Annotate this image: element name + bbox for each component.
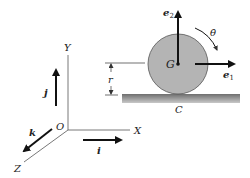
j-label: j [42, 87, 48, 98]
contact-point-c-label: C [175, 104, 183, 115]
x-axis-label: X [133, 125, 142, 136]
center-g-label: G [166, 58, 175, 71]
origin-o-label: O [56, 121, 64, 132]
e2-label: e2 [163, 7, 174, 20]
rolling-disk-diagram: e2 e1 θ̇ G C r Y X Z O j i k [0, 0, 250, 178]
z-axis-label: Z [13, 163, 22, 174]
i-label: i [97, 145, 101, 156]
theta-dot-label: θ̇ [210, 27, 216, 38]
e1-label: e1 [223, 69, 234, 82]
y-axis-label: Y [64, 42, 72, 53]
ground-surface [122, 94, 240, 103]
radius-r-label: r [108, 74, 114, 85]
k-label: k [29, 127, 36, 138]
